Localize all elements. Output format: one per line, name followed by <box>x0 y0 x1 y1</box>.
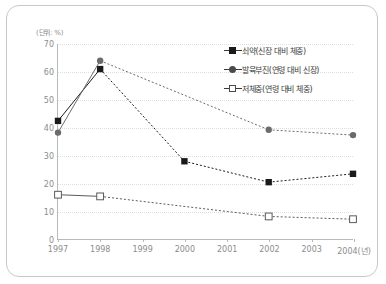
y-axis-tick-label: 50 <box>44 96 54 105</box>
legend-item-label: 쇠약(신장 대비 체중) <box>242 45 306 56</box>
series-segment <box>269 130 353 135</box>
x-axis-tick-mark <box>269 239 270 242</box>
series-segment <box>58 61 100 133</box>
x-axis-tick-label: 2002 <box>259 245 279 254</box>
x-axis-tick-mark <box>100 239 101 242</box>
data-point-filled-square <box>266 179 272 185</box>
legend-item-label: 저체중(연령 대비 체중) <box>242 83 312 94</box>
data-point-filled-square <box>97 66 103 72</box>
x-axis-tick-label: 2001 <box>217 245 237 254</box>
data-point-open-square <box>350 216 357 223</box>
x-axis-tick-label: 1999 <box>132 245 152 254</box>
unit-label: (단위: %) <box>36 27 63 37</box>
series-segment <box>269 216 353 219</box>
y-axis-tick-label: 0 <box>49 236 54 245</box>
y-axis-tick-label: 20 <box>44 180 54 189</box>
legend-item-wasting: 쇠약(신장 대비 체중) <box>224 44 352 57</box>
x-axis-tick-mark <box>354 239 355 242</box>
chart-screenshot: (단위: %) 010203040506070 1997199819992000… <box>0 0 386 284</box>
y-axis-tick-label: 60 <box>44 68 54 77</box>
x-axis-tick-mark <box>58 239 59 242</box>
x-axis-tick-label: 2004(년) <box>337 245 371 256</box>
data-point-filled-square <box>350 171 356 177</box>
series-segment <box>100 69 184 161</box>
x-axis-tick-label: 2003 <box>302 245 322 254</box>
legend-item-underweight: 저체중(연령 대비 체중) <box>224 82 352 95</box>
data-point-filled-circle <box>266 127 272 133</box>
x-axis-tick-mark <box>185 239 186 242</box>
open-square-icon <box>224 83 242 94</box>
data-point-filled-square <box>181 158 187 164</box>
x-axis-tick-label: 2000 <box>175 245 195 254</box>
y-axis-tick-label: 70 <box>44 40 54 49</box>
filled-circle-icon <box>224 64 242 75</box>
legend-item-stunting: 발육부진(연령 대비 신장) <box>224 63 352 76</box>
y-axis-tick-label: 40 <box>44 124 54 133</box>
data-point-open-square <box>55 191 62 198</box>
data-point-filled-circle <box>97 58 103 64</box>
series-segment <box>58 195 100 197</box>
legend-item-label: 발육부진(연령 대비 신장) <box>242 64 319 75</box>
x-axis-tick-mark <box>227 239 228 242</box>
x-axis-tick-mark <box>312 239 313 242</box>
y-axis-tick-label: 10 <box>44 208 54 217</box>
x-axis-tick-mark <box>143 239 144 242</box>
data-point-filled-circle <box>350 132 356 138</box>
series-segment <box>269 174 353 182</box>
data-point-open-square <box>265 213 272 220</box>
x-axis-tick-label: 1998 <box>90 245 110 254</box>
series-segment <box>58 69 100 121</box>
data-point-open-square <box>97 193 104 200</box>
y-axis-tick-label: 30 <box>44 152 54 161</box>
series-segment <box>100 196 269 216</box>
filled-square-icon <box>224 45 242 56</box>
data-point-filled-square <box>55 118 61 124</box>
data-point-filled-circle <box>55 129 61 135</box>
x-axis-tick-label: 1997 <box>48 245 68 254</box>
chart-legend: 쇠약(신장 대비 체중)발육부진(연령 대비 신장)저체중(연령 대비 체중) <box>224 44 352 101</box>
series-open-square <box>55 191 357 222</box>
series-segment <box>184 161 268 182</box>
